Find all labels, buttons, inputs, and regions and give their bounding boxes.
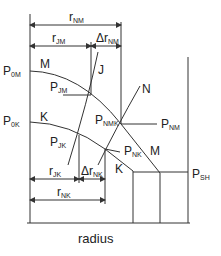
drNK-label: ΔrNK (81, 164, 103, 178)
diagram-svg: rNM rJM ΔrNM P0M M J PJM N P0K K PNMK PN… (0, 0, 221, 256)
rJM-label: rJM (52, 31, 66, 45)
x-axis-label: radius (78, 231, 114, 246)
PJM-label: PJM (50, 80, 68, 94)
K-right-label: K (115, 162, 123, 176)
M-right-label: M (150, 144, 160, 158)
rNK-label: rNK (57, 185, 71, 199)
drNM-label: ΔrNM (96, 31, 119, 45)
rJK-label: rJK (49, 164, 62, 178)
N-label: N (142, 82, 151, 96)
P0M-label: P0M (3, 64, 21, 78)
PNM-label: PNM (161, 117, 180, 131)
P0K-label: P0K (3, 114, 20, 128)
J-label: J (98, 63, 104, 77)
PJK-label: PJK (50, 135, 67, 149)
K-left-label: K (40, 110, 48, 124)
PNMK-label: PNMK (95, 113, 119, 127)
PNK-label: PNK (124, 144, 142, 158)
curve-J (68, 52, 98, 165)
M-top-label: M (40, 57, 50, 71)
PSH-label: PSH (192, 167, 210, 181)
pressure-radius-diagram: rNM rJM ΔrNM P0M M J PJM N P0K K PNMK PN… (0, 0, 221, 256)
rNM-label: rNM (69, 10, 84, 24)
